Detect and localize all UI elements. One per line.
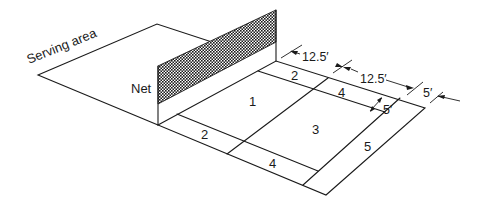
serving-area-label: Serving area [25, 25, 100, 67]
zone-4-near-label: 4 [269, 156, 276, 171]
net-label: Net [131, 81, 152, 96]
zone-2-far-label: 2 [291, 68, 298, 83]
net [158, 10, 276, 125]
dimension-first-half-label: 12.5′ [302, 50, 329, 64]
dimension-inner-strip-label: 5′ [383, 103, 393, 117]
zone-2-near-label: 2 [201, 127, 208, 142]
center-line [227, 78, 328, 154]
court-diagram: Serving area Net 1 2 4 3 5 2 4 12.5′ 12.… [0, 0, 479, 205]
zone-4-far-label: 4 [338, 85, 345, 100]
zone-1-label: 1 [249, 94, 256, 109]
dimension-5-inner [370, 97, 382, 112]
dimension-outer-strip-label: 5′ [423, 86, 433, 100]
dimension-second-half-label: 12.5′ [360, 72, 387, 86]
court-lines [177, 71, 400, 185]
zone-3-label: 3 [312, 122, 319, 137]
zone-5-label: 5 [364, 139, 371, 154]
